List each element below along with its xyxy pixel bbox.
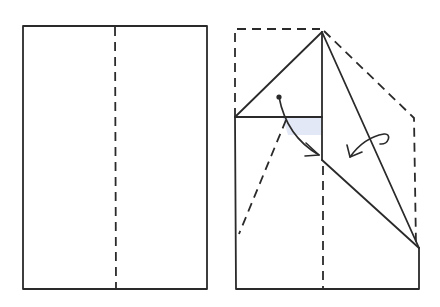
step-1-sheet xyxy=(23,26,207,289)
right-flap-long-diagonal xyxy=(322,32,419,248)
sheet-lower-outline xyxy=(235,117,419,289)
shaded-flap-region xyxy=(283,118,321,135)
left-diagonal-fold-line xyxy=(239,120,286,234)
center-fold-line xyxy=(115,27,116,288)
right-flap-lower-edge xyxy=(322,160,419,248)
origami-diagram xyxy=(0,0,440,307)
left-flap-diagonal xyxy=(235,32,322,117)
step-2-sheet xyxy=(235,29,419,289)
arrowhead-icon xyxy=(305,143,319,156)
fold-behind-arrow-right xyxy=(347,134,389,157)
